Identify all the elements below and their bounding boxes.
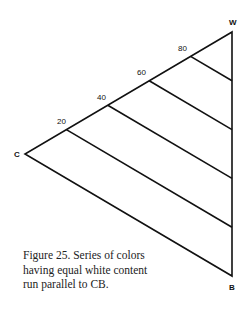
caption-line-1: Figure 25. Series of colors [23, 248, 183, 263]
parallel-lines [66, 56, 232, 227]
tick-label-40: 40 [97, 93, 106, 102]
tick-label-80: 80 [178, 44, 187, 53]
parallel-line-80 [191, 56, 232, 80]
parallel-line-40 [108, 105, 232, 178]
parallel-line-60 [149, 81, 232, 130]
parallel-line-20 [66, 130, 232, 228]
caption-line-3: run parallel to CB. [23, 277, 183, 292]
vertex-label-b: B [229, 283, 235, 292]
triangle-cwb [25, 32, 232, 276]
caption-line-2: having equal white content [23, 263, 183, 278]
tick-label-20: 20 [57, 117, 66, 126]
vertex-label-w: W [229, 18, 237, 27]
tick-label-60: 60 [137, 68, 146, 77]
figure-caption: Figure 25. Series of colors having equal… [23, 248, 183, 292]
vertex-label-c: C [14, 150, 20, 159]
